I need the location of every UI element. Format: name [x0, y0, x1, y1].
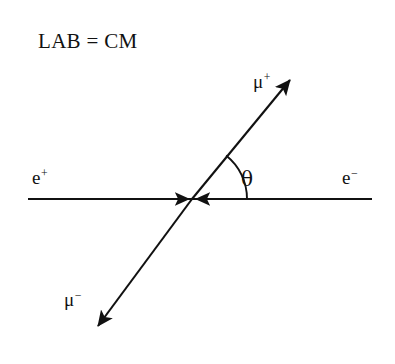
muon-minus-label: μ−	[64, 290, 81, 309]
electron-label: e−	[342, 168, 358, 187]
electron-charge: −	[350, 167, 357, 180]
muon-minus-charge: −	[74, 289, 81, 302]
particle-scattering-diagram: LAB = CM e+ e− μ+ μ− θ	[0, 0, 395, 364]
diagram-canvas	[0, 0, 395, 364]
muon-minus-outgoing-arrow	[98, 199, 192, 326]
muon-plus-symbol: μ	[253, 71, 263, 92]
muon-plus-charge: +	[263, 71, 270, 84]
positron-label: e+	[32, 168, 48, 187]
frame-title: LAB = CM	[38, 31, 137, 52]
scattering-angle-label: θ	[241, 169, 253, 189]
muon-plus-label: μ+	[253, 72, 270, 91]
positron-charge: +	[40, 167, 47, 180]
muon-minus-symbol: μ	[64, 289, 74, 310]
